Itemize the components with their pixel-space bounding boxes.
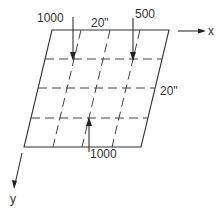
plate-load-diagram: 1000 500 1000 20" 20" x y [0,0,223,212]
y-axis-arrow [12,153,22,189]
x-axis-arrow [178,29,206,34]
load-label-500: 500 [135,7,155,21]
y-axis-label: y [10,192,16,206]
load-arrow-500-down [130,18,136,61]
dimension-top-20in: 20" [91,16,109,30]
load-arrow-1000-down [70,17,76,61]
dimension-right-20in: 20" [160,84,178,98]
load-label-1000-top: 1000 [37,11,64,25]
x-axis-label: x [208,24,214,38]
load-label-1000-bottom: 1000 [90,147,117,161]
